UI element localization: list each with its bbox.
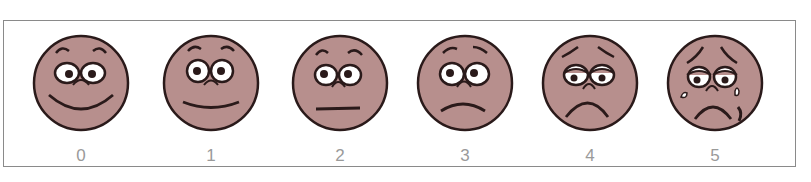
rating-label-1: 1 (191, 146, 231, 166)
face-2-neutral-icon (290, 33, 390, 133)
face-5-crying-icon (665, 33, 765, 133)
face-3-slightly-sad-icon (415, 33, 515, 133)
rating-label-5: 5 (695, 146, 735, 166)
face-1-happy-icon (161, 33, 261, 133)
face-0-very-happy-icon (31, 33, 131, 133)
rating-label-3: 3 (445, 146, 485, 166)
rating-label-0: 0 (61, 146, 101, 166)
rating-label-2: 2 (320, 146, 360, 166)
face-4-sad-icon (540, 33, 640, 133)
rating-label-4: 4 (570, 146, 610, 166)
